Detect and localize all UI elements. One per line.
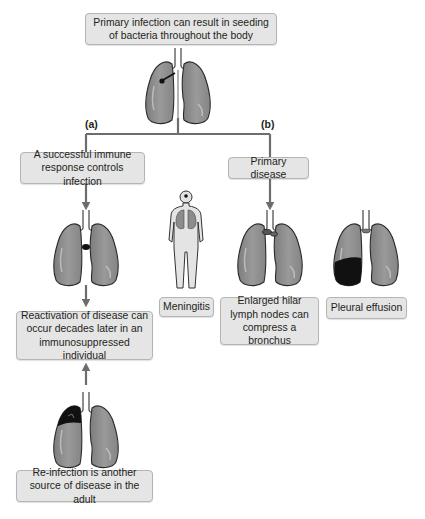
primary-infection-box: Primary infection can result in seeding … xyxy=(85,13,277,45)
primary-disease-text: Primary disease xyxy=(232,155,305,182)
lungs-hilar-nodes-icon xyxy=(238,210,302,286)
immune-control-box: A successful immune response controls in… xyxy=(20,152,145,184)
meningitis-box: Meningitis xyxy=(159,297,214,317)
primary-disease-box: Primary disease xyxy=(228,157,309,179)
meningitis-text: Meningitis xyxy=(163,300,210,313)
pleural-effusion-text: Pleural effusion xyxy=(331,301,402,314)
hilar-nodes-text: Enlarged hilar lymph nodes can compress … xyxy=(224,294,315,347)
human-figure-icon xyxy=(169,191,203,288)
lungs-primary-focus-icon xyxy=(146,48,210,124)
reinfection-box: Re-infection is another source of diseas… xyxy=(16,470,153,502)
primary-infection-text: Primary infection can result in seeding … xyxy=(89,16,273,43)
lungs-controlled-icon xyxy=(54,210,118,286)
lungs-pleural-effusion-icon xyxy=(334,210,398,286)
reinfection-text: Re-infection is another source of diseas… xyxy=(20,466,149,506)
immune-control-text: A successful immune response controls in… xyxy=(24,148,141,188)
diagram-graphics xyxy=(0,0,425,519)
reactivation-box: Reactivation of disease can occur decade… xyxy=(16,311,153,360)
reactivation-text: Reactivation of disease can occur decade… xyxy=(20,309,149,362)
lungs-reinfection-icon xyxy=(54,392,118,468)
branch-a-label: (a) xyxy=(85,118,98,130)
branch-b-label: (b) xyxy=(261,118,274,130)
pleural-effusion-box: Pleural effusion xyxy=(326,297,407,319)
hilar-nodes-box: Enlarged hilar lymph nodes can compress … xyxy=(220,297,319,345)
